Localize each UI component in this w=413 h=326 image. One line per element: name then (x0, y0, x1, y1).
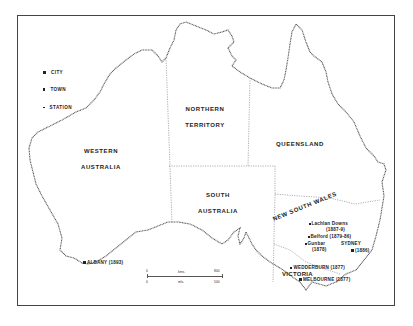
station-symbol-icon (43, 107, 45, 109)
place-melbourne: MELBOURNE (1877) (299, 277, 350, 282)
scale-mi-unit: mls. (178, 280, 184, 284)
label-line: AUSTRALIA (193, 208, 243, 214)
place-label: (1886) (355, 248, 369, 253)
scale-mi-zero: 0 (146, 280, 148, 284)
legend-station: STATION (43, 105, 72, 110)
label-line: AUSTRALIA (78, 164, 124, 170)
place-lachlan-downs-date: (1887-9) (326, 227, 345, 232)
city-symbol-icon (83, 261, 86, 264)
place-label: WEDDERBURN (1877) (293, 265, 345, 270)
place-sydney-date: (1886) (351, 248, 369, 253)
label-south-australia: SOUTH AUSTRALIA (193, 192, 243, 214)
place-label: Gunbar (308, 241, 326, 246)
label-western-australia: WESTERN AUSTRALIA (78, 148, 124, 170)
place-sydney: SYDNEY (341, 241, 361, 246)
australia-map (0, 0, 413, 326)
place-lachlan-downs: Lachlan Downs (309, 221, 348, 226)
city-symbol-icon (43, 71, 46, 74)
label-line: TERRITORY (180, 122, 230, 128)
label-line: WESTERN (78, 148, 124, 154)
legend-city: CITY (43, 70, 63, 75)
place-wedderburn: WEDDERBURN (1877) (290, 265, 345, 270)
station-symbol-icon (308, 236, 310, 238)
scale-km-zero: 0 (146, 269, 148, 273)
legend-town: TOWN (43, 87, 66, 92)
label-queensland: QUEENSLAND (270, 141, 330, 147)
legend-city-label: CITY (51, 70, 63, 75)
label-northern-territory: NORTHERN TERRITORY (180, 106, 230, 128)
place-label: Lachlan Downs (312, 221, 348, 226)
scale-bar-line (147, 276, 223, 277)
place-albany: ALBANY (1893) (83, 260, 123, 265)
place-belford: Belford (1879-86) (308, 234, 351, 239)
nt-qld-border (248, 78, 250, 166)
station-symbol-icon (305, 243, 307, 245)
station-symbol-icon (309, 223, 311, 225)
legend-station-label: STATION (50, 105, 72, 110)
legend-town-label: TOWN (50, 87, 66, 92)
scale-mi-max: 500 (214, 280, 220, 284)
scale-tick (222, 274, 223, 278)
scale-km-max: 800 (214, 269, 220, 273)
wa-border (166, 58, 172, 222)
city-symbol-icon (299, 278, 302, 281)
place-gunbar-date: (1878) (312, 247, 326, 252)
scale-tick (147, 274, 148, 278)
scale-km-unit: kms. (178, 270, 185, 274)
city-symbol-icon (351, 249, 354, 252)
place-label: Belford (1879-86) (311, 234, 352, 239)
place-label: ALBANY (1893) (87, 260, 123, 265)
label-line: SOUTH (193, 192, 243, 198)
label-line: QUEENSLAND (270, 141, 330, 147)
place-gunbar: Gunbar (305, 241, 325, 246)
label-line: NORTHERN (180, 106, 230, 112)
town-symbol-icon (43, 88, 45, 90)
place-label: MELBOURNE (1877) (303, 277, 350, 282)
